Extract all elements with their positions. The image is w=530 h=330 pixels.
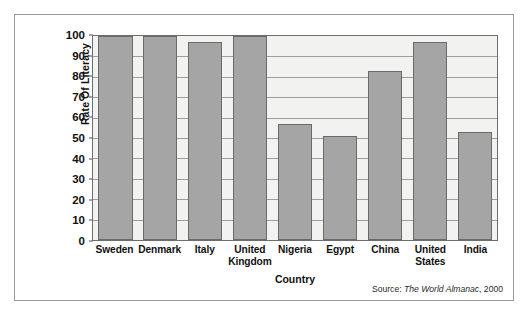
bar-slot xyxy=(273,36,318,240)
bar[interactable] xyxy=(413,42,447,240)
x-tick-label-line: Italy xyxy=(182,244,227,256)
source-note: Source: The World Almanac, 2000 xyxy=(372,284,503,294)
bars-layer xyxy=(93,36,497,240)
bar[interactable] xyxy=(278,124,312,240)
bar[interactable] xyxy=(323,136,357,240)
bar-slot xyxy=(362,36,407,240)
y-tick-label: 20 xyxy=(72,194,85,206)
y-axis-tick-labels: 1009080706050403020100 xyxy=(51,35,89,241)
source-publication: The World Almanac xyxy=(404,284,479,294)
y-tick-label: 70 xyxy=(72,91,85,103)
bar-slot xyxy=(228,36,273,240)
bar-slot xyxy=(452,36,497,240)
y-tick-label: 90 xyxy=(72,50,85,62)
bar[interactable] xyxy=(143,36,177,240)
y-tick-label: 10 xyxy=(72,214,85,226)
source-year: , 2000 xyxy=(479,284,503,294)
x-tick-label-line: Sweden xyxy=(92,244,137,256)
x-tick-label-line: Nigeria xyxy=(272,244,317,256)
bar[interactable] xyxy=(188,42,222,240)
bar-slot xyxy=(138,36,183,240)
x-tick-label-line: Egypt xyxy=(318,244,363,256)
plot-area xyxy=(92,35,498,241)
x-tick-label-line: China xyxy=(363,244,408,256)
y-tick-label: 80 xyxy=(72,70,85,82)
x-tick-label-line: Kingdom xyxy=(227,256,272,268)
y-tick-label: 0 xyxy=(79,235,85,247)
bar[interactable] xyxy=(233,36,267,240)
bar-slot xyxy=(407,36,452,240)
bar[interactable] xyxy=(368,71,402,240)
chart-figure-frame: Rate Of Literacy 1009080706050403020100 … xyxy=(14,14,514,301)
bar[interactable] xyxy=(458,132,492,240)
bar-slot xyxy=(183,36,228,240)
x-tick-label-line: States xyxy=(408,256,453,268)
x-tick-label-line: United xyxy=(227,244,272,256)
bar[interactable] xyxy=(98,36,132,240)
x-tick-label-line: India xyxy=(453,244,498,256)
y-tick-label: 30 xyxy=(72,173,85,185)
source-prefix: Source: xyxy=(372,284,402,294)
bar-slot xyxy=(93,36,138,240)
y-tick-label: 100 xyxy=(66,29,85,41)
y-tick-label: 60 xyxy=(72,111,85,123)
bar-slot xyxy=(317,36,362,240)
x-tick-label-line: United xyxy=(408,244,453,256)
y-tick-label: 40 xyxy=(72,153,85,165)
x-tick-label-line: Denmark xyxy=(137,244,182,256)
y-tick-label: 50 xyxy=(72,132,85,144)
